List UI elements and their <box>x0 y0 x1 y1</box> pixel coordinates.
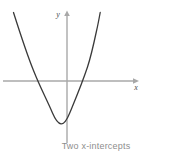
parabola-curve <box>14 13 101 124</box>
y-axis-label: y <box>55 10 60 19</box>
y-axis-arrow-icon <box>64 11 70 17</box>
parabola-plot: y x <box>0 0 192 160</box>
parabola-figure: y x Two x-intercepts <box>0 0 192 160</box>
x-axis-label: x <box>133 83 138 92</box>
figure-caption: Two x-intercepts <box>0 140 192 152</box>
